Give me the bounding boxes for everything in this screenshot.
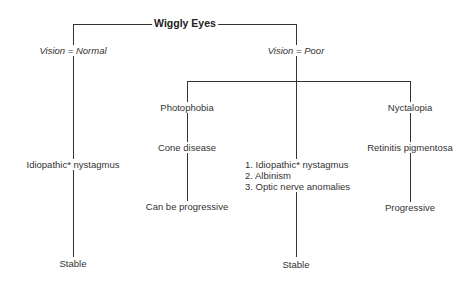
- connector-poor: [296, 24, 297, 257]
- outcome-stable-normal: Stable: [58, 258, 89, 269]
- symptom-photophobia: Photophobia: [158, 102, 215, 113]
- condition-normal: Vision = Normal: [37, 45, 108, 56]
- list-item: 1. Idiopathic* nystagmus: [245, 159, 350, 170]
- diagnosis-list: 1. Idiopathic* nystagmus 2. Albinism 3. …: [243, 159, 352, 192]
- root-node: Wiggly Eyes: [152, 18, 218, 29]
- diagnosis-idiopathic: Idiopathic* nystagmus: [25, 159, 122, 170]
- flowchart: Wiggly Eyes Vision = Normal Idiopathic* …: [0, 0, 470, 285]
- list-item: 2. Albinism: [245, 170, 350, 181]
- outcome-can-be-progressive: Can be progressive: [144, 201, 230, 212]
- condition-poor: Vision = Poor: [266, 45, 327, 56]
- connector-normal: [73, 24, 74, 257]
- symptom-nyctalopia: Nyctalopia: [386, 102, 434, 113]
- diagnosis-retinitis: Retinitis pigmentosa: [365, 142, 455, 153]
- connector-poor-split: [187, 81, 411, 82]
- outcome-progressive: Progressive: [383, 202, 437, 213]
- diagnosis-cone-disease: Cone disease: [156, 142, 218, 153]
- outcome-stable-poor: Stable: [281, 259, 312, 270]
- list-item: 3. Optic nerve anomalies: [245, 181, 350, 192]
